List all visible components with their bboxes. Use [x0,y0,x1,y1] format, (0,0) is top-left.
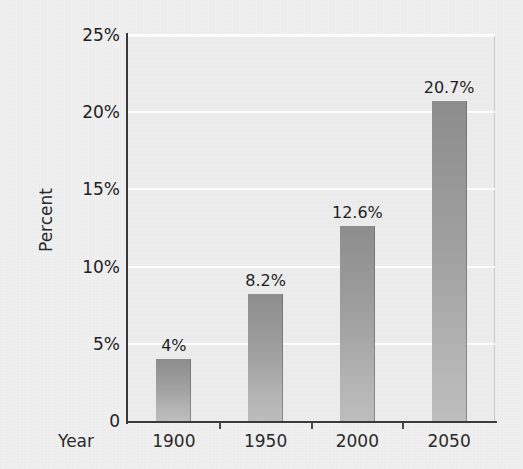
bar-value-label: 8.2% [221,271,311,290]
bar-value-label: 20.7% [404,78,494,97]
y-axis-tick-label: 10% [54,257,120,277]
y-axis-line [126,33,128,424]
y-axis-tick-label: 20% [54,102,120,122]
y-axis-tick-labels: 05%10%15%20%25% [50,0,120,469]
y-axis-tick-label: 25% [54,25,120,45]
bar [432,101,467,421]
x-axis-tick-label: 2000 [319,431,395,451]
bar-value-label: 12.6% [312,203,402,222]
y-axis-tick-label: 15% [54,179,120,199]
x-axis-tick-label: 1950 [228,431,304,451]
bar [248,294,283,421]
x-axis-tick-label: 2050 [411,431,487,451]
y-axis-tick-label: 0 [54,411,120,431]
x-axis-tickmark [402,423,404,429]
x-axis-tickmark [311,423,313,429]
x-axis-tick-label: 1900 [136,431,212,451]
bar [340,226,375,421]
bar [156,359,191,421]
plot-right-edge [494,35,495,422]
chart-figure: Percent Year 4%8.2%12.6%20.7% 05%10%15%2… [0,0,523,469]
gridline [128,34,495,36]
x-axis-tickmark [219,423,221,429]
y-axis-tick-label: 5% [54,334,120,354]
bar-value-label: 4% [129,336,219,355]
